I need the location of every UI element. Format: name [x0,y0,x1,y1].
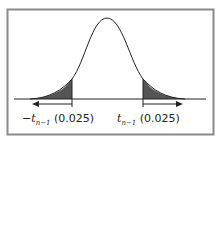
left-critical-label: −tn−1 (0.025) [22,112,94,127]
minus-sign: − [22,112,31,125]
alpha-value: (0.025) [54,112,94,125]
right-critical-label: tn−1 (0.025) [117,112,180,127]
df-subscript: n−1 [121,119,136,127]
df-subscript: n−1 [36,119,51,127]
alpha-value: (0.025) [140,112,180,125]
